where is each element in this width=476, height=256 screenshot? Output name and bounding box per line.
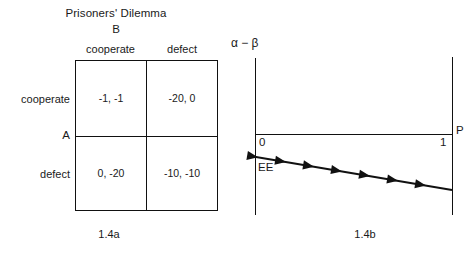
figure-container: Prisoners' Dilemma B cooperate defect -1… — [0, 0, 476, 256]
flow-line-group — [0, 0, 476, 256]
caption-panel-b: 1.4b — [335, 228, 395, 240]
flow-arrowheads — [246, 151, 426, 190]
